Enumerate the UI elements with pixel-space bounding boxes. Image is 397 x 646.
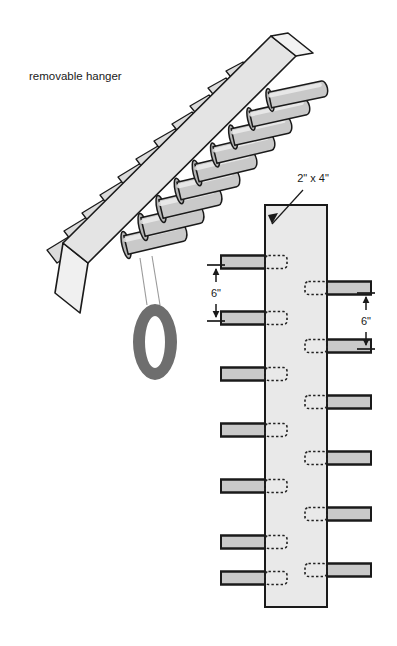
- elevation-peg-left-1: [221, 256, 265, 269]
- elevation-peg-left-6: [221, 536, 265, 549]
- elevation-peg-right-5: [327, 508, 371, 521]
- removable-hanger-label: removable hanger: [29, 70, 122, 82]
- dim-left-label: 6": [211, 287, 221, 299]
- elevation-peg-right-6: [327, 564, 371, 577]
- elevation-peg-right-3: [327, 396, 371, 409]
- elevation-peg-left-7: [221, 572, 265, 585]
- dim-right-label: 6": [361, 315, 371, 327]
- diagram-root: removable hanger 2" x 4": [0, 0, 397, 646]
- board-size-label: 2" x 4": [297, 172, 329, 184]
- elevation-board-2x4: [265, 205, 327, 607]
- elevation-peg-left-4: [221, 424, 265, 437]
- elevation-peg-right-4: [327, 452, 371, 465]
- canvas-background: [0, 0, 397, 646]
- elevation-peg-left-3: [221, 368, 265, 381]
- elevation-peg-left-5: [221, 480, 265, 493]
- peg-rack-diagram: removable hanger 2" x 4": [0, 0, 397, 646]
- elevation-peg-left-2: [221, 312, 265, 325]
